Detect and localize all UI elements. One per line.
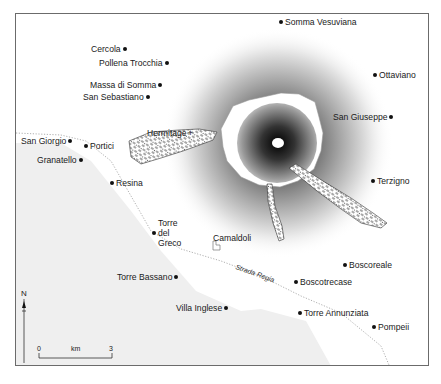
place-torre-annunziata: Torre Annunziata bbox=[298, 308, 369, 318]
place-somma-vesuviana: Somma Vesuviana bbox=[279, 17, 357, 27]
town-dot-icon bbox=[174, 275, 178, 279]
scale-unit: km bbox=[71, 345, 80, 352]
town-dot-icon bbox=[279, 20, 283, 24]
place-ottaviano: Ottaviano bbox=[373, 70, 416, 80]
place-portici: Portici bbox=[84, 141, 114, 151]
crater bbox=[272, 138, 284, 148]
map-frame: Somma Vesuviana Cercola Pollena Trocchia… bbox=[15, 13, 429, 366]
place-terzigno: Terzigno bbox=[371, 176, 409, 186]
town-dot-icon bbox=[165, 61, 169, 65]
landmark-camaldoli: Camaldoli bbox=[213, 233, 251, 243]
town-dot-icon bbox=[372, 325, 376, 329]
place-massa-di-somma: Massa di Somma bbox=[90, 80, 162, 90]
place-torre-del-greco: Torre del Greco bbox=[152, 218, 181, 248]
town-dot-icon bbox=[152, 231, 156, 235]
town-dot-icon bbox=[373, 73, 377, 77]
cross-icon: + bbox=[188, 128, 193, 138]
town-dot-icon bbox=[343, 263, 347, 267]
caption-area bbox=[0, 368, 441, 384]
place-boscoreale: Boscoreale bbox=[343, 260, 392, 270]
place-pompeii: Pompeii bbox=[372, 322, 409, 332]
town-dot-icon bbox=[68, 139, 72, 143]
place-boscotrecase: Boscotrecase bbox=[294, 277, 352, 287]
place-villa-inglese: Villa Inglese bbox=[176, 303, 228, 313]
place-torre-bassano: Torre Bassano bbox=[117, 272, 178, 282]
place-cercola: Cercola bbox=[91, 44, 127, 54]
town-dot-icon bbox=[298, 311, 302, 315]
place-san-giuseppe: San Giuseppe bbox=[333, 112, 393, 122]
town-dot-icon bbox=[158, 83, 162, 87]
town-dot-icon bbox=[371, 179, 375, 183]
place-san-giorgio: San Giorgio bbox=[21, 136, 72, 146]
town-dot-icon bbox=[224, 306, 228, 310]
place-san-sebastiano: San Sebastiano bbox=[83, 92, 150, 102]
town-dot-icon bbox=[123, 47, 127, 51]
north-label: N bbox=[21, 289, 27, 298]
place-pollena-trocchia: Pollena Trocchia bbox=[99, 58, 169, 68]
scale-min: 0 bbox=[37, 345, 41, 352]
town-dot-icon bbox=[110, 181, 114, 185]
town-dot-icon bbox=[146, 95, 150, 99]
town-dot-icon bbox=[84, 144, 88, 148]
scale-max: 3 bbox=[109, 345, 113, 352]
place-resina: Resina bbox=[110, 178, 143, 188]
town-dot-icon bbox=[389, 115, 393, 119]
town-dot-icon bbox=[79, 158, 83, 162]
town-dot-icon bbox=[294, 280, 298, 284]
place-granatello: Granatello bbox=[37, 155, 83, 165]
landmark-hermitage: Hermitage+ bbox=[147, 128, 193, 138]
